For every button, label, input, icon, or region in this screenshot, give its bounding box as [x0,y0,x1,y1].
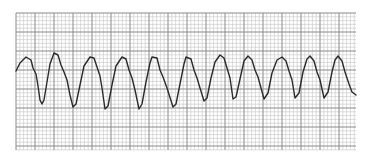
ecg-rhythm-strip [0,0,369,162]
